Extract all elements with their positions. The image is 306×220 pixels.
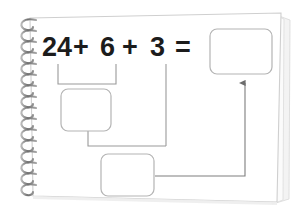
answer-box-layer	[0, 0, 306, 220]
second-partial-sum-box[interactable]	[101, 154, 154, 196]
final-answer-box[interactable]	[210, 29, 272, 74]
first-partial-sum-box[interactable]	[61, 89, 111, 131]
notebook-worksheet: 24 + 6 + 3 =	[0, 0, 306, 220]
